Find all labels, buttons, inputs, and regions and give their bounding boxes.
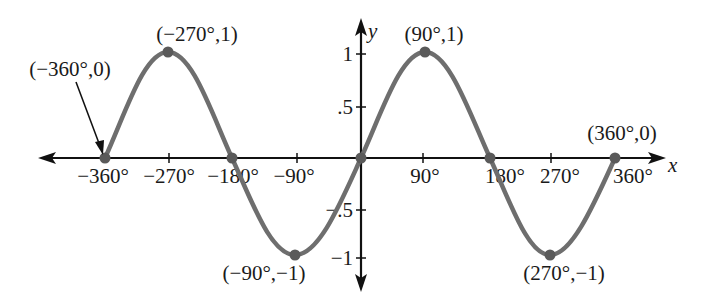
x-tick-label: −360°: [77, 164, 129, 188]
annotation-neg90: (−90°,−1): [223, 261, 306, 285]
sine-chart: x y 1 .5 −.5 −1 −360° −270° −180° −90° 9…: [0, 0, 703, 307]
point-270: [545, 250, 556, 261]
point-neg270: [163, 47, 174, 58]
annotation-neg270: (−270°,1): [156, 22, 237, 46]
point-360: [610, 153, 621, 164]
point-90: [420, 47, 431, 58]
point-180: [485, 153, 496, 164]
point-neg360: [100, 153, 111, 164]
point-origin: [356, 153, 367, 164]
x-tick-label: 90°: [410, 164, 439, 188]
annotation-arrow-icon: [76, 82, 104, 155]
y-tick-label: 1: [343, 42, 354, 66]
annotation-neg360: (−360°,0): [29, 57, 110, 81]
x-axis-label: x: [667, 153, 678, 177]
point-neg90: [290, 250, 301, 261]
y-tick-label: −1: [331, 246, 353, 270]
annotation-90: (90°,1): [404, 22, 463, 46]
point-neg180: [227, 153, 238, 164]
annotation-360: (360°,0): [587, 121, 657, 145]
x-tick-label: 360°: [613, 164, 653, 188]
y-tick-label: .5: [337, 95, 353, 119]
annotation-270: (270°,−1): [523, 261, 604, 285]
x-tick-label: −270°: [143, 164, 195, 188]
x-tick-label: 270°: [540, 164, 580, 188]
x-tick-label: 180°: [485, 164, 525, 188]
y-axis-label: y: [366, 19, 378, 43]
x-tick-label: −180°: [207, 164, 259, 188]
x-tick-label: −90°: [273, 164, 314, 188]
